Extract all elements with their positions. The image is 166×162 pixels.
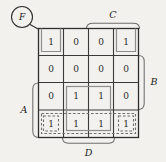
variable-label-a: A (20, 104, 28, 115)
kmap-cell-r2c3: 0 (98, 64, 104, 74)
bracket-top-c: C (87, 9, 140, 29)
bracket-right-b: B (139, 56, 158, 110)
kmap-cell-r2c4: 0 (123, 64, 129, 74)
kmap-cell-r1c4: 1 (123, 37, 129, 47)
kmap-cell-r3c2: 1 (73, 91, 79, 101)
kmap-cell-r2c2: 0 (73, 64, 79, 74)
kmap-cell-r4c2: 1 (73, 119, 79, 129)
bracket-bottom-d: D (63, 138, 115, 159)
kmap-cell-r1c2: 0 (73, 37, 79, 47)
bracket-left-a-shape (33, 83, 39, 138)
bracket-top-c-shape (87, 23, 140, 28)
kmap-cell-r4c1: 1 (48, 119, 54, 129)
bracket-left-a: A (20, 83, 39, 138)
function-label-callout: F (12, 7, 40, 30)
kmap-cell-r3c1: 0 (48, 91, 54, 101)
kmap-cell-r2c1: 0 (48, 64, 54, 74)
kmap-cell-r4c3: 1 (98, 119, 104, 129)
kmap-cell-r3c4: 0 (123, 91, 129, 101)
kmap-cell-r1c3: 0 (98, 37, 104, 47)
function-leader-line (30, 24, 39, 29)
karnaugh-map-diagram: F C B A D (0, 0, 166, 162)
kmap-cell-r4c4: 1 (123, 119, 129, 129)
kmap-cell-r1c1: 1 (48, 37, 54, 47)
variable-label-c: C (109, 9, 117, 20)
variable-label-b: B (150, 76, 158, 87)
function-label-text: F (18, 12, 26, 22)
bracket-right-b-shape (139, 56, 145, 110)
bracket-bottom-d-shape (63, 138, 115, 144)
variable-label-d: D (84, 147, 93, 158)
kmap-cell-r3c3: 1 (98, 91, 104, 101)
